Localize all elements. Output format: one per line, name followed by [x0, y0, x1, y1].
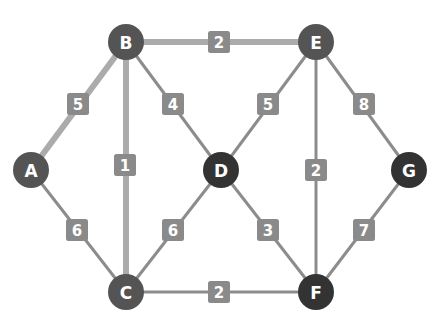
node-label: D [214, 161, 228, 181]
nodes-layer: ABCDEFG [13, 24, 427, 310]
node-label: B [120, 33, 133, 53]
node-f: F [298, 274, 334, 310]
node-label: F [310, 283, 322, 303]
weight-text: 2 [214, 34, 224, 52]
weight-text: 4 [168, 96, 178, 114]
edge-weight-label: 2 [208, 31, 230, 53]
weight-text: 6 [72, 222, 82, 240]
weight-text: 7 [359, 222, 369, 240]
weight-text: 8 [359, 96, 369, 114]
node-a: A [13, 152, 49, 188]
weight-text: 1 [120, 157, 130, 175]
edge-weight-label: 5 [257, 93, 279, 115]
node-g: G [391, 152, 427, 188]
node-b: B [108, 24, 144, 60]
node-label: C [120, 283, 132, 303]
edge-weight-label: 5 [67, 93, 89, 115]
weight-text: 2 [311, 162, 321, 180]
weight-text: 5 [263, 96, 273, 114]
edge-weight-label: 6 [162, 219, 184, 241]
edge-weight-label: 2 [208, 281, 230, 303]
node-c: C [108, 274, 144, 310]
edge-weight-label: 7 [353, 219, 375, 241]
node-e: E [298, 24, 334, 60]
node-label: G [402, 161, 416, 181]
weight-text: 3 [263, 222, 273, 240]
edge-weight-label: 4 [162, 93, 184, 115]
weight-text: 6 [168, 222, 178, 240]
edge-weight-label: 3 [257, 219, 279, 241]
graph-diagram: 521466252837 ABCDEFG [0, 0, 441, 327]
node-d: D [203, 152, 239, 188]
node-label: E [310, 33, 322, 53]
weight-text: 5 [73, 96, 83, 114]
edge-weight-label: 8 [353, 93, 375, 115]
weight-text: 2 [214, 284, 224, 302]
edge-weight-label: 1 [114, 154, 136, 176]
edge-weight-label: 6 [66, 219, 88, 241]
edge-weight-label: 2 [305, 159, 327, 181]
node-label: A [24, 161, 38, 181]
